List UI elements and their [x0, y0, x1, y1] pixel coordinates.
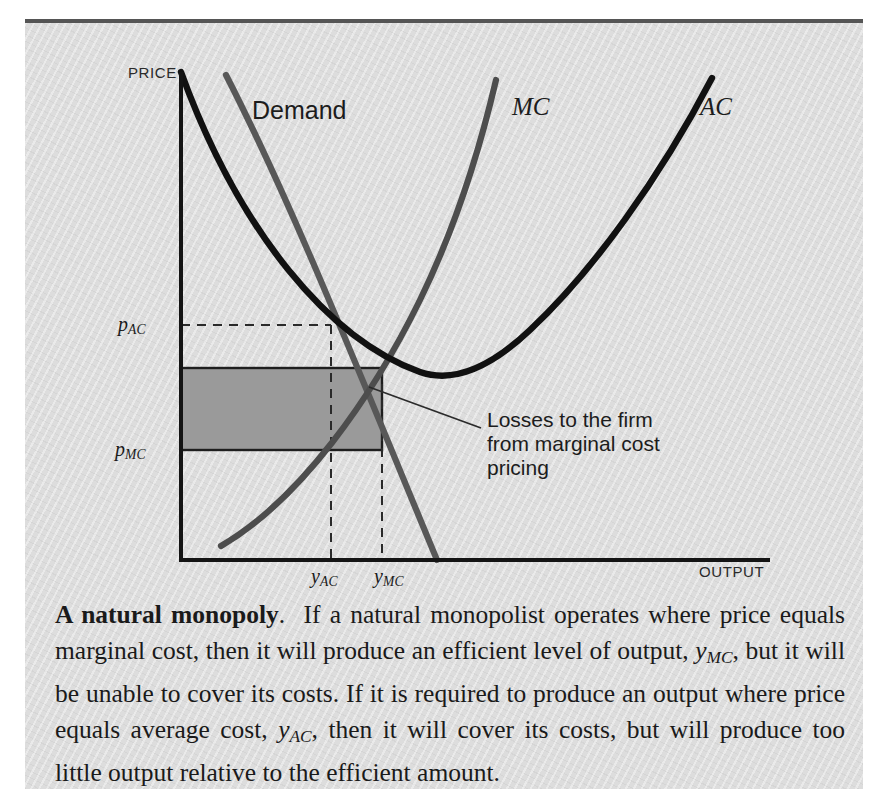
caption-math-1: yMC [695, 636, 732, 665]
p-ac-base: p [118, 313, 128, 335]
loss-annotation: Losses to the firm from marginal cost pr… [487, 408, 737, 480]
economics-plot-svg [0, 0, 883, 600]
loss-annotation-line-3: pricing [487, 456, 737, 480]
annotation-leader-line [369, 387, 481, 428]
y-axis-label: PRICE [128, 64, 177, 81]
caption-title: A natural monopoly [55, 600, 279, 629]
caption-math-1-base: y [695, 636, 706, 665]
marginal-cost-curve-label: MC [512, 93, 550, 121]
loss-rectangle [181, 368, 382, 450]
p-ac-subscript: AC [128, 322, 146, 337]
caption-math-1-sub: MC [707, 648, 733, 667]
price-tick-label-p-ac: pAC [118, 313, 146, 338]
x-axis-label: OUTPUT [699, 563, 764, 580]
y-ac-base: y [311, 565, 320, 587]
output-tick-label-y-ac: yAC [311, 565, 338, 590]
p-mc-base: p [115, 438, 125, 460]
p-mc-subscript: MC [125, 447, 146, 462]
caption-math-2-base: y [278, 715, 289, 744]
y-ac-subscript: AC [320, 574, 338, 589]
caption-title-punct: . [279, 600, 285, 629]
output-tick-label-y-mc: yMC [374, 565, 404, 590]
demand-curve-label: Demand [252, 96, 347, 125]
figure-page: PRICE OUTPUT Demand MC AC pAC pMC yAC yM… [0, 0, 883, 789]
loss-annotation-line-2: from marginal cost [487, 432, 737, 456]
average-cost-curve-label: AC [700, 93, 732, 121]
caption-math-2: yAC [278, 715, 311, 744]
price-tick-label-p-mc: pMC [115, 438, 146, 463]
plot-area: PRICE OUTPUT Demand MC AC pAC pMC yAC yM… [0, 0, 883, 600]
y-mc-subscript: MC [383, 574, 404, 589]
y-mc-base: y [374, 565, 383, 587]
loss-annotation-line-1: Losses to the firm [487, 408, 737, 432]
figure-caption: A natural monopoly. If a natural monopol… [55, 597, 845, 789]
caption-math-2-sub: AC [289, 727, 311, 746]
